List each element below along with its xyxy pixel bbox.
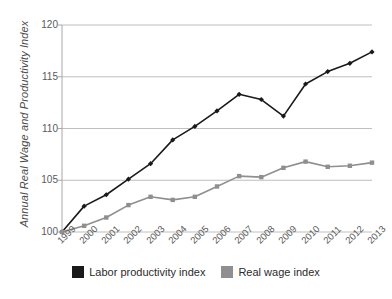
data-point-real-wage-2010 — [303, 159, 307, 163]
chart-legend: Labor productivity indexReal wage index — [0, 266, 392, 278]
data-point-real-wage-2001 — [104, 215, 108, 219]
legend-swatch-icon — [221, 266, 233, 278]
legend-label: Labor productivity index — [89, 266, 205, 278]
legend-entry-productivity[interactable]: Labor productivity index — [72, 266, 205, 278]
data-point-real-wage-2012 — [348, 164, 352, 168]
series-line-real-wage — [62, 162, 372, 232]
data-point-real-wage-2003 — [148, 195, 152, 199]
data-point-real-wage-2004 — [171, 198, 175, 202]
data-point-real-wage-2000 — [82, 224, 86, 228]
data-point-real-wage-2005 — [193, 195, 197, 199]
data-point-real-wage-2009 — [281, 166, 285, 170]
data-point-real-wage-2011 — [326, 165, 330, 169]
data-point-real-wage-2013 — [370, 160, 374, 164]
legend-label: Real wage index — [238, 266, 319, 278]
chart-container: Annual Real Wage and Productivity Index … — [0, 0, 392, 299]
data-point-real-wage-2006 — [215, 184, 219, 188]
data-point-real-wage-2007 — [237, 174, 241, 178]
series-line-productivity — [62, 52, 372, 232]
plot-area — [0, 0, 392, 299]
data-point-real-wage-2008 — [259, 175, 263, 179]
legend-entry-real-wage[interactable]: Real wage index — [221, 266, 319, 278]
legend-swatch-icon — [72, 266, 84, 278]
data-point-real-wage-2002 — [126, 203, 130, 207]
